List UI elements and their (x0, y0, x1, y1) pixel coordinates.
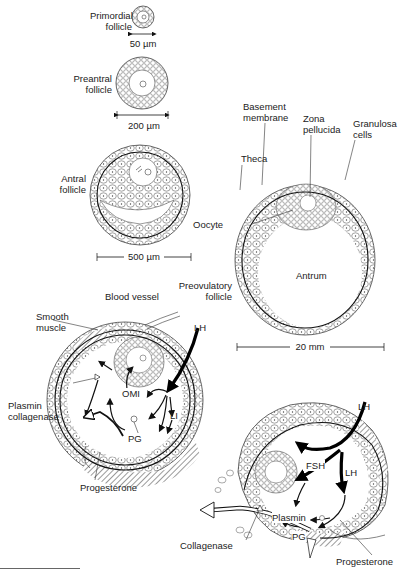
label-line: Granulosa (353, 118, 397, 129)
primordial-follicle-drawing (131, 6, 155, 34)
label-line: Smooth (36, 311, 69, 322)
label-line: Plasmin (8, 400, 59, 411)
label-line: Zona (303, 113, 341, 124)
lh-label-right-inner: LH (345, 467, 357, 478)
lh-label-left: LH (194, 322, 206, 333)
preovulatory-scale-label: 20 mm (290, 341, 330, 352)
label-line: cells (353, 129, 397, 140)
progesterone-label-left: Progesterone (80, 482, 137, 493)
plasmin-label: Plasmin (272, 512, 306, 523)
label-line: membrane (243, 112, 288, 123)
plasmin-collagenase-label: Plasmin collagenase (8, 400, 59, 422)
label-line: follicle (168, 291, 232, 302)
antrum-label: Antrum (296, 270, 327, 281)
progesterone-label-right: Progesterone (336, 556, 393, 567)
label-line: muscle (36, 322, 69, 333)
primordial-follicle-label: Primordial follicle (90, 10, 132, 32)
pg-label-right: PG (292, 531, 306, 542)
collagenase-label: Collagenase (180, 540, 233, 551)
blood-vessel-label: Blood vessel (105, 291, 159, 302)
granulosa-cells-label: Granulosa cells (353, 118, 397, 140)
ovulation-follicle-left-drawing (47, 312, 203, 488)
zona-pellucida-label: Zona pellucida (303, 113, 341, 135)
antral-scale-label: 500 µm (124, 251, 164, 262)
antral-follicle-label: Antral follicle (50, 173, 86, 195)
fsh-label: FSH (306, 460, 325, 471)
primordial-scale-label: 50 µm (125, 38, 161, 49)
label-line: follicle (90, 21, 132, 32)
smooth-muscle-label: Smooth muscle (36, 311, 69, 333)
lh-label-right-top: LH (358, 401, 370, 412)
theca-label: Theca (241, 153, 267, 164)
preantral-follicle-label: Preantral follicle (68, 73, 112, 95)
label-line: Preantral (68, 73, 112, 84)
li-label: LI (170, 410, 178, 421)
oocyte-label: Oocyte (193, 219, 223, 230)
preantral-follicle-drawing (116, 57, 168, 119)
footnote-rule (0, 568, 80, 569)
omi-label: OMI (122, 388, 140, 399)
label-line: Primordial (90, 10, 132, 21)
label-line: follicle (68, 84, 112, 95)
antral-follicle-drawing (90, 145, 191, 261)
label-line: Antral (50, 173, 86, 184)
preovulatory-follicle-label: Preovulatory follicle (168, 280, 232, 302)
label-line: Basement (243, 101, 288, 112)
preantral-scale-label: 200 µm (122, 120, 166, 131)
label-line: pellucida (303, 124, 341, 135)
pg-label-left: PG (128, 433, 142, 444)
label-line: Preovulatory (168, 280, 232, 291)
label-line: follicle (50, 184, 86, 195)
label-line: collagenase (8, 411, 59, 422)
basement-membrane-label: Basement membrane (243, 101, 288, 123)
